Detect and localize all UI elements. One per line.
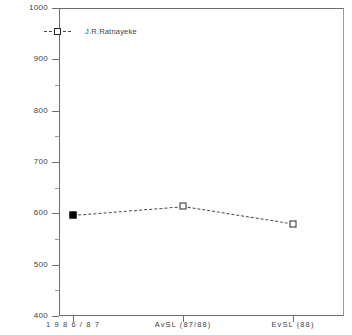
y-axis-tick <box>52 213 59 214</box>
x-axis-tick-label: EvSL (88) <box>272 320 315 329</box>
data-point-marker <box>70 211 77 218</box>
y-axis-minor-tick <box>55 85 59 86</box>
y-axis-minor-tick <box>55 239 59 240</box>
y-axis-minor-tick <box>55 188 59 189</box>
y-axis-minor-tick <box>55 136 59 137</box>
chart-title: SRI LANKA DONATIONS <box>86 0 276 2</box>
y-axis-tick-label: 400 <box>8 311 48 320</box>
legend-marker-open-square-icon <box>54 28 61 35</box>
plot-area <box>59 8 344 316</box>
x-axis-tick-label: AvSL (87/88) <box>155 320 212 329</box>
chart-legend: J.R.Ratnayeke <box>44 24 137 38</box>
y-axis-tick-label: 900 <box>8 54 48 63</box>
data-point-marker <box>180 203 187 210</box>
y-axis-tick-label: 1000 <box>8 3 48 12</box>
y-axis-tick <box>52 265 59 266</box>
y-axis-tick-label: 600 <box>8 208 48 217</box>
x-axis-tick-label: 1 9 8 6 / 8 7 <box>46 320 100 329</box>
y-axis-tick <box>52 8 59 9</box>
y-axis-minor-tick <box>55 290 59 291</box>
legend-label: J.R.Ratnayeke <box>85 27 137 36</box>
y-axis-tick <box>52 59 59 60</box>
y-axis-tick-label: 700 <box>8 157 48 166</box>
legend-dash-right <box>63 31 71 32</box>
y-axis-tick-label: 500 <box>8 260 48 269</box>
chart-container: SRI LANKA DONATIONS 40050060070080090010… <box>0 0 352 335</box>
y-axis-tick-label: 800 <box>8 106 48 115</box>
legend-dash-left <box>44 31 52 32</box>
data-point-marker <box>290 220 297 227</box>
y-axis-tick <box>52 316 59 317</box>
y-axis-tick <box>52 111 59 112</box>
y-axis-tick <box>52 162 59 163</box>
